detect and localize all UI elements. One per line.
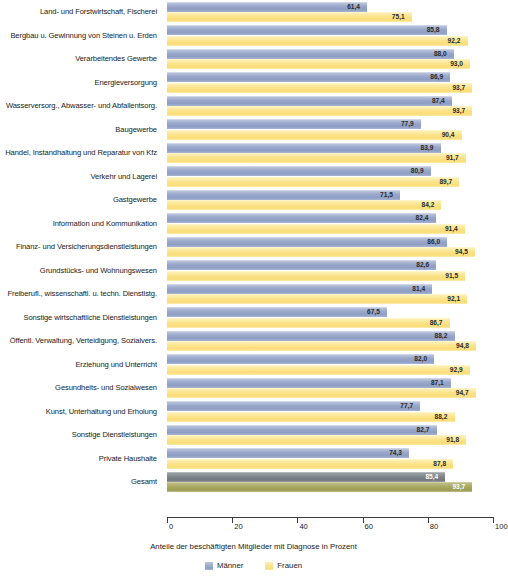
category-label: Baugewerbe (0, 118, 162, 142)
bar-maenner (167, 425, 437, 435)
bar-frauen (167, 200, 441, 210)
axis-tick-label: 40 (297, 522, 307, 531)
bar-group: 71,584,2 (167, 188, 507, 212)
bar-frauen (167, 12, 412, 22)
bar-value-label: 85,8 (427, 25, 440, 34)
bar-frauen (167, 435, 466, 445)
bar-frauen (167, 365, 470, 375)
category-label: Kunst, Unterhaltung und Erholung (0, 400, 162, 424)
bar-value-label: 92,9 (450, 365, 463, 374)
bar-frauen (167, 153, 466, 163)
bar-group: 86,993,7 (167, 71, 507, 95)
bar-value-label: 92,2 (448, 36, 461, 45)
bar-group: 87,194,7 (167, 376, 507, 400)
x-axis-title: Anteile der beschäftigten Mitglieder mit… (0, 542, 507, 551)
bar-value-label: 82,7 (417, 425, 430, 434)
category-label: Information und Kommunikation (0, 212, 162, 236)
bar-value-label: 82,4 (416, 213, 429, 222)
bar-group: 67,586,7 (167, 306, 507, 330)
category-label: Wasserversorg., Abwasser- und Abfallents… (0, 94, 162, 118)
bar-frauen (167, 177, 459, 187)
chart-row: Private Haushalte74,387,8 (0, 447, 507, 471)
bar-value-label: 94,7 (456, 388, 469, 397)
bar-value-label: 94,8 (456, 341, 469, 350)
bar-group: 82,791,8 (167, 423, 507, 447)
chart-row: Gesundheits- und Sozialwesen87,194,7 (0, 376, 507, 400)
chart-row: Gastgewerbe71,584,2 (0, 188, 507, 212)
category-label: Finanz- und Versicherungsdienstleistunge… (0, 235, 162, 259)
bar-value-label: 91,7 (446, 153, 459, 162)
bar-value-label: 87,8 (433, 459, 446, 468)
chart-row: Finanz- und Versicherungsdienstleistunge… (0, 235, 507, 259)
legend-swatch-icon (205, 562, 213, 570)
bar-frauen (167, 412, 455, 422)
bar-frauen (167, 83, 472, 93)
bar-group: 88,093,0 (167, 47, 507, 71)
bar-frauen (167, 59, 470, 69)
chart-row: Baugewerbe77,990,4 (0, 118, 507, 142)
chart-row: Öffentl. Verwaltung, Verteidigung, Sozia… (0, 329, 507, 353)
bar-frauen (167, 36, 468, 46)
legend-label: Männer (217, 561, 243, 570)
bar-value-label: 82,6 (416, 260, 429, 269)
bar-value-label: 86,7 (430, 318, 443, 327)
bar-maenner (167, 331, 455, 341)
category-label: Handel, Instandhaltung und Reparatur von… (0, 141, 162, 165)
bar-value-label: 94,5 (455, 247, 468, 256)
category-label: Energieversorgung (0, 71, 162, 95)
bar-group: 81,492,1 (167, 282, 507, 306)
bar-value-label: 88,2 (435, 331, 448, 340)
bar-value-label: 86,9 (430, 72, 443, 81)
chart-row: Sonstige Dienstleistungen82,791,8 (0, 423, 507, 447)
bar-group: 85,493,7 (167, 470, 507, 494)
bar-group: 83,991,7 (167, 141, 507, 165)
bar-value-label: 91,8 (446, 435, 459, 444)
chart-row: Bergbau u. Gewinnung von Steinen u. Erde… (0, 24, 507, 48)
bar-value-label: 82,0 (414, 354, 427, 363)
bar-value-label: 93,0 (450, 59, 463, 68)
chart-row: Kunst, Unterhaltung und Erholung77,788,2 (0, 400, 507, 424)
category-label: Verarbeitendes Gewerbe (0, 47, 162, 71)
bar-maenner (167, 472, 445, 482)
bar-value-label: 67,5 (367, 307, 380, 316)
bar-frauen (167, 271, 465, 281)
chart-row: Land- und Forstwirtschaft, Fischerei61,4… (0, 0, 507, 24)
bar-value-label: 71,5 (380, 190, 393, 199)
bar-value-label: 80,9 (411, 166, 424, 175)
bar-value-label: 88,2 (435, 412, 448, 421)
bar-maenner (167, 213, 436, 223)
bar-group: 82,491,4 (167, 212, 507, 236)
legend-item[interactable]: Frauen (265, 561, 302, 570)
bar-value-label: 90,4 (442, 130, 455, 139)
chart-row: Wasserversorg., Abwasser- und Abfallents… (0, 94, 507, 118)
bar-frauen (167, 224, 465, 234)
category-label: Gesundheits- und Sozialwesen (0, 376, 162, 400)
chart-row: Verarbeitendes Gewerbe88,093,0 (0, 47, 507, 71)
category-label: Grundstücks- und Wohnungswesen (0, 259, 162, 283)
bar-value-label: 91,5 (445, 271, 458, 280)
category-label: Erziehung und Unterricht (0, 353, 162, 377)
bar-frauen (167, 388, 476, 398)
bar-group: 88,294,8 (167, 329, 507, 353)
bar-value-label: 89,7 (439, 177, 452, 186)
bar-value-label: 91,4 (445, 224, 458, 233)
axis-line (167, 517, 493, 518)
legend-item[interactable]: Männer (205, 561, 243, 570)
bar-value-label: 85,4 (425, 472, 438, 481)
legend-label: Frauen (277, 561, 302, 570)
bar-maenner (167, 237, 447, 247)
bar-frauen (167, 318, 450, 328)
bar-group: 86,094,5 (167, 235, 507, 259)
bar-value-label: 87,1 (431, 378, 444, 387)
bar-maenner (167, 166, 431, 176)
bar-group: 82,691,5 (167, 259, 507, 283)
bar-maenner (167, 354, 434, 364)
bar-group: 82,092,9 (167, 353, 507, 377)
bar-value-label: 61,4 (347, 2, 360, 11)
bar-value-label: 87,4 (432, 96, 445, 105)
chart-row: Erziehung und Unterricht82,092,9 (0, 353, 507, 377)
bar-frauen (167, 341, 476, 351)
bar-value-label: 77,9 (401, 119, 414, 128)
chart-row: Handel, Instandhaltung und Reparatur von… (0, 141, 507, 165)
bar-value-label: 93,7 (452, 83, 465, 92)
